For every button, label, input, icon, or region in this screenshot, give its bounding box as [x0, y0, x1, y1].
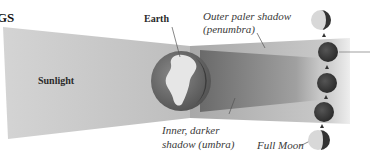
sunlight-label: Sunlight — [38, 75, 74, 87]
full-moon-label: Full Moon — [257, 139, 304, 151]
umbra-label-line1: Inner, darker — [162, 124, 219, 136]
penumbra-label-line2: (penumbra) — [203, 23, 255, 35]
moon-eclipsed-2 — [317, 73, 337, 93]
penumbra-label-line1: Outer paler shadow — [203, 10, 291, 22]
umbra-label-line2: shadow (umbra) — [162, 138, 234, 150]
earth-label: Earth — [144, 13, 169, 25]
moon-full — [308, 130, 330, 150]
heading-fragment: GS — [0, 12, 14, 24]
moon-eclipsed-3 — [314, 102, 334, 122]
moon-eclipsed-1 — [318, 42, 338, 62]
moon-partial-top — [311, 10, 331, 30]
earth-globe — [151, 51, 211, 111]
